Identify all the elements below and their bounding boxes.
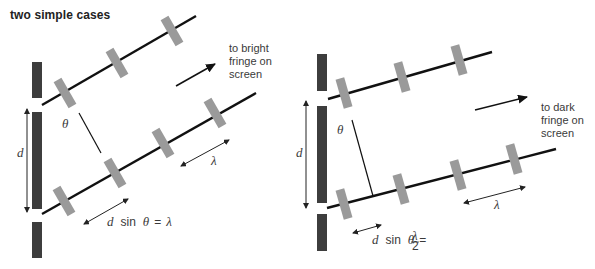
wavelength-label: λ bbox=[210, 153, 217, 168]
slit-separation-label: d bbox=[17, 145, 24, 160]
slit-separation-label: d bbox=[296, 145, 303, 160]
angle-label: θ bbox=[62, 116, 69, 131]
direction-label-line-1: to bright bbox=[229, 42, 269, 54]
path-difference-label: d sin θ = λ bbox=[107, 212, 172, 229]
perpendicular-line bbox=[79, 113, 101, 153]
upper-wavefronts bbox=[54, 16, 184, 108]
upper-ray bbox=[328, 52, 492, 99]
direction-label-line-2: fringe on bbox=[229, 55, 272, 67]
barrier-middle-segment bbox=[317, 106, 327, 203]
wavelength-label: λ bbox=[493, 197, 500, 212]
wavelength-arrow bbox=[181, 140, 229, 166]
direction-label-line-1: to dark bbox=[541, 101, 575, 113]
lower-wavefronts bbox=[53, 98, 227, 216]
barrier-top-segment bbox=[317, 54, 327, 91]
right-case: d θ λ d sin θ = λ 2 to dark fringe on sc… bbox=[296, 44, 584, 253]
left-barrier bbox=[32, 62, 42, 258]
double-slit-diagram: d θ λ d sin θ = λ to bright fringe on sc… bbox=[0, 0, 595, 269]
upper-wavefronts bbox=[336, 44, 468, 108]
barrier-middle-segment bbox=[32, 112, 42, 209]
fraction-denominator: 2 bbox=[412, 239, 419, 253]
direction-label-line-3: screen bbox=[541, 127, 574, 139]
lower-ray bbox=[42, 93, 256, 214]
perpendicular-line bbox=[352, 120, 373, 196]
barrier-bottom-segment bbox=[317, 214, 327, 251]
angle-label: θ bbox=[337, 122, 344, 137]
direction-label-line-3: screen bbox=[229, 68, 262, 80]
left-case: d θ λ d sin θ = λ to bright fringe on sc… bbox=[17, 16, 272, 258]
right-barrier bbox=[317, 54, 327, 251]
direction-arrow bbox=[475, 97, 527, 110]
direction-label-line-2: fringe on bbox=[541, 114, 584, 126]
lower-ray bbox=[327, 149, 556, 208]
barrier-bottom-segment bbox=[32, 222, 42, 258]
barrier-top-segment bbox=[32, 62, 42, 98]
direction-arrow bbox=[176, 64, 215, 86]
